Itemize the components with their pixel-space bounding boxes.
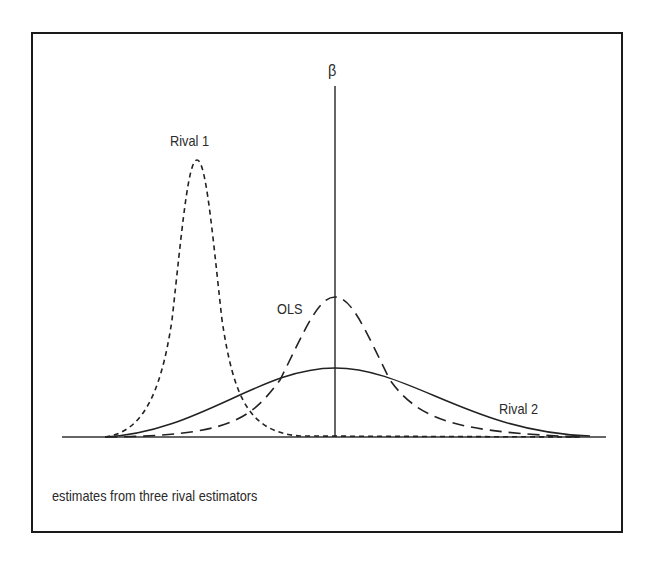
ols-label: OLS: [277, 300, 303, 317]
density-plot: [0, 0, 657, 561]
figure-caption: estimates from three rival estimators: [52, 487, 257, 504]
beta-label: β: [328, 61, 336, 81]
rival1-curve: [105, 160, 580, 437]
rival1-label: Rival 1: [170, 132, 209, 149]
rival2-label: Rival 2: [499, 400, 538, 417]
